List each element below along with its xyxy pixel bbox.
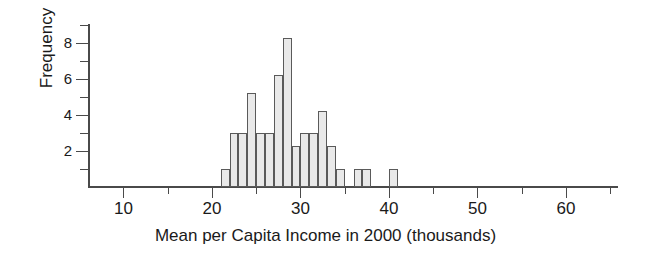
histogram-bar [292, 146, 301, 187]
y-axis-title: Frequency [37, 0, 57, 123]
histogram-bar [230, 133, 239, 187]
histogram-bar [221, 169, 230, 187]
histogram-chart: 2468 102030405060 Frequency Mean per Cap… [0, 0, 651, 261]
histogram-bar [327, 146, 336, 187]
histogram-bar [389, 169, 398, 187]
histogram-bar [265, 133, 274, 187]
histogram-bar [354, 169, 363, 187]
histogram-bar [274, 75, 283, 187]
x-axis-title: Mean per Capita Income in 2000 (thousand… [0, 226, 651, 246]
histogram-bar [247, 93, 256, 187]
histogram-bars [0, 0, 651, 261]
histogram-bar [336, 169, 345, 187]
histogram-bar [300, 133, 309, 187]
histogram-bar [318, 111, 327, 187]
histogram-bar [362, 169, 371, 187]
histogram-bar [256, 133, 265, 187]
histogram-bar [283, 38, 292, 187]
histogram-bar [309, 133, 318, 187]
histogram-bar [238, 133, 247, 187]
